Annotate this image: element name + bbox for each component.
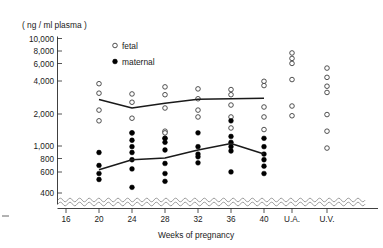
data-point-fetal xyxy=(229,103,234,108)
data-point-maternal xyxy=(262,164,267,169)
data-point-fetal xyxy=(130,100,135,105)
data-point-fetal xyxy=(97,119,102,124)
data-point-fetal xyxy=(262,127,267,132)
y-axis-unit-label: ( ng / ml plasma ) xyxy=(22,20,87,30)
axis-break-wave xyxy=(58,198,365,206)
data-point-fetal xyxy=(130,116,135,121)
data-point-fetal xyxy=(163,85,168,90)
data-point-fetal xyxy=(325,146,330,151)
data-point-fetal xyxy=(290,56,295,61)
data-point-maternal xyxy=(196,154,201,159)
trend-line-maternal xyxy=(99,144,264,170)
x-tick-label: 32 xyxy=(193,215,203,224)
data-point-fetal xyxy=(290,77,295,82)
data-point-maternal xyxy=(163,140,168,145)
y-tick-label: 8,000 xyxy=(34,47,55,56)
data-point-maternal xyxy=(130,167,135,172)
x-tick-label: 36 xyxy=(226,215,236,224)
data-point-fetal xyxy=(97,81,102,86)
data-point-fetal xyxy=(290,113,295,118)
data-point-fetal xyxy=(262,105,267,110)
data-point-fetal xyxy=(262,83,267,88)
x-tick-label: 16 xyxy=(61,215,71,224)
x-tick-label: 24 xyxy=(127,215,137,224)
data-point-maternal xyxy=(163,171,168,176)
x-axis-title: Weeks of pregnancy xyxy=(158,230,235,240)
data-point-fetal xyxy=(229,126,234,131)
data-point-fetal xyxy=(262,115,267,120)
legend-marker-maternal xyxy=(113,59,118,64)
data-point-maternal xyxy=(97,171,102,176)
data-point-maternal xyxy=(229,118,234,123)
data-point-fetal xyxy=(325,90,330,95)
data-point-maternal xyxy=(229,134,234,139)
data-point-maternal xyxy=(97,163,102,168)
data-point-fetal xyxy=(163,131,168,136)
data-point-maternal xyxy=(97,177,102,182)
legend-label-fetal: fetal xyxy=(122,41,138,51)
data-point-fetal xyxy=(196,87,201,92)
data-point-fetal xyxy=(229,92,234,97)
scatter-plot-svg: ( ng / ml plasma ) 10,000 8,000 6,000 4,… xyxy=(0,0,383,248)
legend-label-maternal: maternal xyxy=(122,57,155,67)
y-tick-label: 4,000 xyxy=(34,77,55,86)
data-point-fetal xyxy=(163,92,168,97)
data-point-maternal xyxy=(229,170,234,175)
data-point-maternal xyxy=(97,150,102,155)
data-point-maternal xyxy=(196,144,201,149)
x-axis-tick-labels: 16 20 24 28 32 36 40 U.A. U.V. xyxy=(61,215,334,224)
data-point-fetal xyxy=(325,129,330,134)
x-tick-label: U.V. xyxy=(319,215,334,224)
data-point-fetal xyxy=(325,112,330,117)
x-axis xyxy=(58,209,379,214)
data-point-maternal xyxy=(262,171,267,176)
x-tick-label: U.A. xyxy=(284,215,300,224)
y-tick-label: 6,000 xyxy=(34,60,55,69)
data-point-fetal xyxy=(325,84,330,89)
chart-legend: fetal maternal xyxy=(113,41,155,67)
data-point-maternal xyxy=(130,150,135,155)
y-axis-tick-labels: 10,000 8,000 6,000 4,000 2,000 1,000 800… xyxy=(29,35,54,198)
data-point-maternal xyxy=(130,185,135,190)
data-point-fetal xyxy=(97,91,102,96)
data-point-fetal xyxy=(325,75,330,80)
y-tick-label: 1,000 xyxy=(34,142,55,151)
trend-path-maternal-mean xyxy=(99,144,264,170)
data-point-maternal xyxy=(196,130,201,135)
data-point-maternal xyxy=(262,157,267,162)
data-point-maternal xyxy=(229,149,234,154)
data-point-maternal xyxy=(262,136,267,141)
data-point-fetal xyxy=(229,87,234,92)
data-point-fetal xyxy=(196,115,201,120)
data-point-fetal xyxy=(290,61,295,66)
data-point-fetal xyxy=(325,66,330,71)
data-point-maternal xyxy=(163,148,168,153)
data-point-maternal xyxy=(130,138,135,143)
x-tick-label: 28 xyxy=(160,215,170,224)
trend-path-fetal-mean xyxy=(99,98,264,108)
y-tick-label: 800 xyxy=(40,155,54,164)
y-tick-label: 2,000 xyxy=(34,110,55,119)
data-point-fetal xyxy=(163,106,168,111)
data-point-maternal xyxy=(163,179,168,184)
trend-line-fetal xyxy=(99,98,264,108)
data-point-fetal xyxy=(196,108,201,113)
data-point-fetal xyxy=(130,92,135,97)
data-point-fetal xyxy=(290,51,295,56)
y-tick-label: 400 xyxy=(40,189,54,198)
y-tick-label: 600 xyxy=(40,168,54,177)
y-tick-label: 10,000 xyxy=(29,35,54,44)
y-axis xyxy=(58,37,63,205)
data-point-fetal xyxy=(290,104,295,109)
data-point-maternal xyxy=(196,160,201,165)
data-point-fetal xyxy=(97,108,102,113)
chart-container: ( ng / ml plasma ) 10,000 8,000 6,000 4,… xyxy=(0,0,383,248)
data-point-maternal xyxy=(262,144,267,149)
x-tick-label: 40 xyxy=(259,215,269,224)
data-point-maternal xyxy=(163,161,168,166)
data-point-maternal xyxy=(130,144,135,149)
data-point-maternal xyxy=(130,130,135,135)
legend-marker-fetal xyxy=(113,43,118,48)
x-tick-label: 20 xyxy=(94,215,104,224)
